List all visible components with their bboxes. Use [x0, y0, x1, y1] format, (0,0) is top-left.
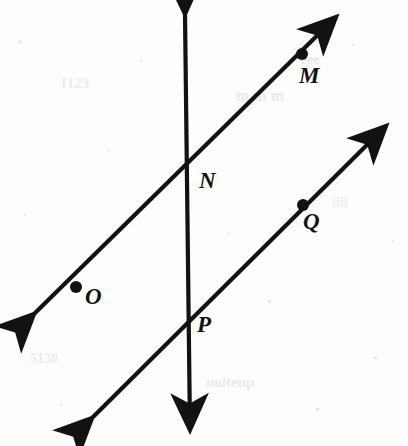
- point-o-dot: [70, 281, 82, 293]
- point-m-label: M: [299, 64, 319, 87]
- point-n-label: N: [199, 169, 216, 192]
- lines-group: [34, 14, 386, 430]
- point-q-label: Q: [303, 210, 320, 233]
- vertical-transversal-line: [185, 14, 190, 430]
- geometry-diagram-canvas: eeem m m1123noiteup5130iiii MNOPQ: [0, 0, 408, 446]
- lower-parallel-line: [92, 126, 386, 418]
- point-o-label: O: [85, 285, 102, 308]
- diagram-svg: [0, 0, 408, 446]
- point-m-dot: [296, 48, 308, 60]
- point-p-label: P: [197, 313, 211, 336]
